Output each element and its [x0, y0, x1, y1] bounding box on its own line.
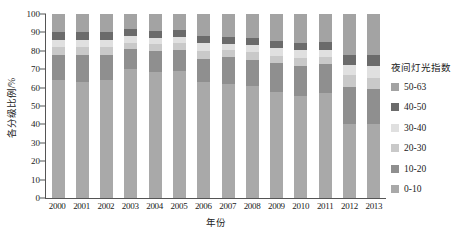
- y-tick-label: 100: [27, 10, 41, 19]
- bar-2009-segment-30-40: [270, 48, 283, 56]
- bar-2005-segment-10-20: [173, 50, 186, 71]
- bar-2011-segment-10-20: [319, 64, 332, 93]
- bar-2005-segment-0-10: [173, 71, 186, 198]
- x-tick-label-2009: 2009: [264, 201, 288, 211]
- bar-2008-segment-30-40: [246, 45, 259, 53]
- bar-2001: [76, 14, 89, 198]
- bar-2007-segment-40-50: [222, 37, 235, 44]
- legend-label-40-50: 40-50: [404, 102, 426, 112]
- bar-2011-segment-20-30: [319, 57, 332, 64]
- bar-2006-segment-10-20: [197, 59, 210, 82]
- bar-2007-segment-0-10: [222, 84, 235, 198]
- bar-2002-segment-40-50: [100, 32, 113, 39]
- bar-2006-segment-20-30: [197, 51, 210, 59]
- bar-2010-segment-0-10: [294, 96, 307, 198]
- bar-2004-segment-40-50: [149, 31, 162, 38]
- legend-label-50-63: 50-63: [404, 82, 426, 92]
- x-tick-label-2005: 2005: [167, 201, 191, 211]
- legend-swatch-50-63: [391, 83, 399, 91]
- bar-2012-segment-20-30: [343, 75, 356, 87]
- x-tick-label-2004: 2004: [142, 201, 166, 211]
- y-tick: [40, 50, 46, 51]
- bar-2003-segment-10-20: [124, 49, 137, 69]
- bar-2009-segment-0-10: [270, 92, 283, 198]
- bar-2011-segment-50-63: [319, 14, 332, 42]
- legend-title: 夜间灯光指数: [391, 60, 451, 74]
- bar-2001-segment-30-40: [76, 40, 89, 47]
- bar-2008-segment-20-30: [246, 52, 259, 60]
- bar-2010-segment-30-40: [294, 50, 307, 58]
- y-tick-label: 80: [31, 46, 40, 55]
- bar-2003: [124, 14, 137, 198]
- bar-2005: [173, 14, 186, 198]
- bar-2013: [367, 14, 380, 198]
- x-tick-label-2003: 2003: [118, 201, 142, 211]
- y-tick: [40, 198, 46, 199]
- bar-2004-segment-10-20: [149, 51, 162, 72]
- legend-item-50-63: 50-63: [391, 80, 451, 93]
- bar-2000-segment-10-20: [52, 55, 65, 81]
- y-tick: [40, 14, 46, 15]
- bar-2002-segment-0-10: [100, 80, 113, 198]
- bar-2005-segment-50-63: [173, 14, 186, 30]
- bar-2013-segment-0-10: [367, 124, 380, 198]
- bar-2011: [319, 14, 332, 198]
- legend-item-20-30: 20-30: [391, 142, 451, 155]
- bar-2007: [222, 14, 235, 198]
- bar-2011-segment-30-40: [319, 50, 332, 57]
- bar-2001-segment-40-50: [76, 32, 89, 39]
- bar-2006-segment-30-40: [197, 43, 210, 51]
- bar-2007-segment-50-63: [222, 14, 235, 37]
- bar-2007-segment-10-20: [222, 57, 235, 84]
- bar-2000-segment-40-50: [52, 32, 65, 39]
- bar-2013-segment-10-20: [367, 89, 380, 125]
- x-tick-label-2001: 2001: [69, 201, 93, 211]
- bar-2012: [343, 14, 356, 198]
- legend-items: 50-6340-5030-4020-3010-200-10: [391, 80, 451, 196]
- bar-2000-segment-20-30: [52, 47, 65, 54]
- bar-2011-segment-0-10: [319, 93, 332, 198]
- x-tick-label-2002: 2002: [94, 201, 118, 211]
- x-tick-label-2011: 2011: [313, 201, 337, 211]
- bar-2002-segment-30-40: [100, 40, 113, 47]
- bar-2005-segment-40-50: [173, 30, 186, 37]
- y-tick-label: 70: [31, 65, 40, 74]
- legend-label-30-40: 30-40: [404, 123, 426, 133]
- bar-2008: [246, 14, 259, 198]
- chart-figure: 各分级比例/% 0102030405060708090100 200020012…: [0, 0, 460, 234]
- bar-2010-segment-50-63: [294, 14, 307, 43]
- legend-swatch-0-10: [391, 185, 399, 193]
- x-tick-label-2012: 2012: [337, 201, 361, 211]
- y-tick-label: 10: [31, 175, 40, 184]
- x-axis-tick-labels: 2000200120022003200420052006200720082009…: [45, 201, 386, 211]
- bar-2002-segment-10-20: [100, 55, 113, 81]
- legend-swatch-40-50: [391, 103, 399, 111]
- legend-item-30-40: 30-40: [391, 121, 451, 134]
- bar-2008-segment-50-63: [246, 14, 259, 38]
- bar-2001-segment-50-63: [76, 14, 89, 32]
- bar-2000-segment-50-63: [52, 14, 65, 32]
- bar-2009-segment-40-50: [270, 41, 283, 48]
- bar-2009: [270, 14, 283, 198]
- y-tick: [40, 106, 46, 107]
- bar-2009-segment-10-20: [270, 63, 283, 92]
- bar-2004-segment-50-63: [149, 14, 162, 31]
- y-tick: [40, 87, 46, 88]
- bar-2008-segment-40-50: [246, 38, 259, 45]
- legend-swatch-30-40: [391, 124, 399, 132]
- x-axis-title: 年份: [45, 215, 386, 229]
- legend-item-40-50: 40-50: [391, 101, 451, 114]
- y-tick: [40, 161, 46, 162]
- bar-2001-segment-0-10: [76, 82, 89, 198]
- bar-2009-segment-50-63: [270, 14, 283, 40]
- bar-2012-segment-40-50: [343, 55, 356, 65]
- bars-group: [46, 14, 386, 198]
- x-tick-label-2006: 2006: [191, 201, 215, 211]
- y-tick-label: 90: [31, 28, 40, 37]
- bar-2003-segment-40-50: [124, 29, 137, 36]
- bar-2008-segment-0-10: [246, 86, 259, 198]
- bar-2012-segment-0-10: [343, 124, 356, 198]
- bar-2001-segment-20-30: [76, 47, 89, 54]
- bar-2013-segment-20-30: [367, 78, 380, 89]
- plot-area: 0102030405060708090100: [45, 14, 386, 199]
